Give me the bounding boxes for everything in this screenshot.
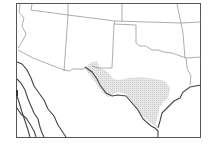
range-map	[0, 0, 212, 152]
map-frame	[17, 4, 201, 138]
state-borders	[18, 4, 201, 85]
island-mark	[16, 90, 18, 96]
range-shading	[85, 61, 170, 127]
